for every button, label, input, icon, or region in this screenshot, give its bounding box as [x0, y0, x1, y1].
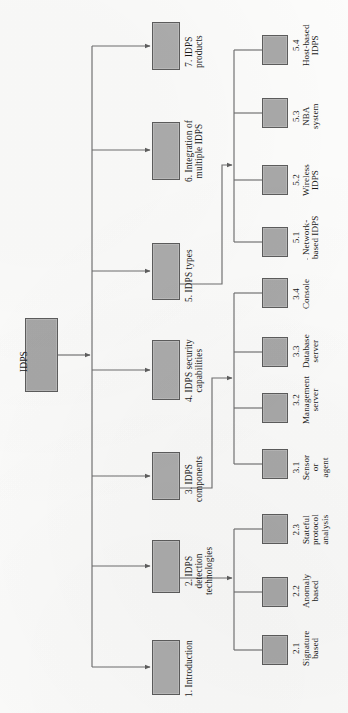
- node-5-1-label: 5.1 Network- based IDPS: [292, 216, 321, 259]
- node-3-1-label: 3.1 Sensor or agent: [292, 455, 330, 480]
- node-7[interactable]: [152, 22, 180, 70]
- node-3-4-label: 3.4 Console: [292, 279, 311, 309]
- node-5-3-label: 5.3 NBA system: [292, 103, 321, 129]
- node-5-4[interactable]: [262, 35, 288, 65]
- node-1-label: 1. Introduction: [185, 640, 195, 697]
- node-2-3-label: 2.3 Stateful protocol analysis: [292, 514, 330, 545]
- node-2-1[interactable]: [262, 635, 288, 665]
- node-2-2-label: 2.2 Anomaly based: [292, 574, 321, 608]
- node-5-3[interactable]: [262, 98, 288, 128]
- node-3-3[interactable]: [262, 337, 288, 367]
- node-5-label: 5. IDPS types: [185, 249, 195, 302]
- node-5-1[interactable]: [262, 227, 288, 257]
- node-root-label: IDPS: [19, 351, 29, 372]
- node-3-label: 3. IDPS components: [185, 456, 205, 502]
- node-5[interactable]: [152, 243, 180, 300]
- node-7-label: 7. IDPS products: [185, 35, 205, 68]
- node-5-2-label: 5.2 Wireless IDPS: [292, 164, 321, 196]
- node-2-1-label: 2.1 Signature based: [292, 631, 321, 666]
- node-1[interactable]: [152, 640, 180, 695]
- node-3[interactable]: [152, 452, 180, 500]
- node-5-2[interactable]: [262, 165, 288, 195]
- node-5-4-label: 5.4 Host-based IDPS: [292, 25, 321, 67]
- node-3-2-label: 3.2 Management server: [292, 376, 321, 424]
- node-2[interactable]: [152, 540, 180, 593]
- node-2-label: 2. IDPS detection technologies: [185, 547, 215, 595]
- node-root[interactable]: [25, 318, 58, 392]
- node-2-3[interactable]: [262, 514, 288, 544]
- node-6[interactable]: [152, 122, 180, 180]
- node-4[interactable]: [152, 340, 180, 400]
- diagram-canvas: IDPS 7. IDPS products 6. Integration of …: [0, 0, 348, 713]
- node-3-4[interactable]: [262, 278, 288, 308]
- node-4-label: 4. IDPS security capabilities: [185, 339, 205, 402]
- node-6-label: 6. Integration of multiple IDPS: [185, 120, 205, 182]
- node-3-1[interactable]: [262, 449, 288, 479]
- node-3-2[interactable]: [262, 393, 288, 423]
- node-3-3-label: 3.3 Database server: [292, 334, 321, 368]
- node-2-2[interactable]: [262, 577, 288, 607]
